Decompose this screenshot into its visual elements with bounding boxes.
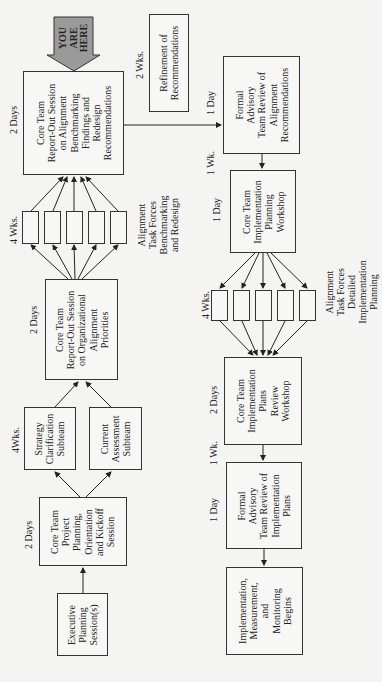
advisory-alignment-box: Formal Advisory Team Review of Alignment… xyxy=(223,56,300,154)
detail-task-force-box-5 xyxy=(299,290,316,321)
plans-review-box: Core Team Implementation Plans Review Wo… xyxy=(224,357,302,445)
advisory-plans-box: Formal Advisory Team Review of Implement… xyxy=(226,462,302,549)
advisory-plans-text: Formal Advisory Team Review of Implement… xyxy=(236,473,292,539)
detail-task-force-box-4 xyxy=(277,290,294,321)
executive-planning-text: Executive Planning Session(s) xyxy=(66,604,100,645)
task-force-box-3 xyxy=(66,211,83,244)
task-force-box-1 xyxy=(22,211,39,244)
advisory-alignment-text: Formal Advisory Team Review of Alignment… xyxy=(233,68,289,142)
gap-1-wk: 1 Wk. xyxy=(205,151,216,175)
you-are-here-label: YOU ARE HERE xyxy=(58,24,90,52)
advisory-alignment-duration: 1 Day xyxy=(205,91,216,115)
task-force-box-5 xyxy=(110,211,127,244)
task-forces-duration: 4 Wks. xyxy=(8,216,19,244)
plans-review-text: Core Team Implementation Plans Review Wo… xyxy=(235,369,291,432)
detail-task-force-box-3 xyxy=(255,290,272,321)
kickoff-duration: 2 Days xyxy=(23,521,34,549)
org-alignment-box: Core Team Report-Out Session on Organiza… xyxy=(45,279,118,380)
benchmarking-report-duration: 2 Days xyxy=(8,106,19,134)
assessment-subteam-box: Current Assessment Subteam xyxy=(89,407,142,470)
task-force-box-2 xyxy=(44,211,61,244)
refinement-text: Refinement of Recommendations xyxy=(158,26,180,100)
detail-task-forces-duration: 4 Wks. xyxy=(200,291,211,319)
detail-task-force-box-2 xyxy=(233,290,250,321)
org-alignment-duration: 2 Days xyxy=(28,306,39,334)
strategy-subteam-text: Strategy Clarification Subteam xyxy=(33,413,67,464)
org-alignment-text: Core Team Report-Out Session on Organiza… xyxy=(53,290,109,369)
executive-planning-box: Executive Planning Session(s) xyxy=(57,593,108,656)
strategy-subteam-box: Strategy Clarification Subteam xyxy=(24,407,76,470)
plans-review-duration: 2 Days xyxy=(208,386,219,414)
detail-task-force-box-1 xyxy=(211,290,228,321)
advisory-plans-duration: 1 Day xyxy=(208,498,219,522)
refinement-box: Refinement of Recommendations xyxy=(149,14,189,112)
task-forces-benchmarking-label: Alignment Task Forces Benchmarking and R… xyxy=(136,196,180,255)
benchmarking-report-box: Core Team Report-Out Session on Alignmen… xyxy=(23,71,124,175)
impl-planning-text: Core Team Implementation Planning Worksh… xyxy=(241,180,286,243)
impl-planning-box: Core Team Implementation Planning Worksh… xyxy=(230,170,296,253)
task-force-box-4 xyxy=(88,211,105,244)
impl-planning-duration: 1 Day xyxy=(211,198,222,222)
task-forces-detailed-label: Alignment Task Forces Detailed Implement… xyxy=(324,260,379,323)
subteams-duration: 4Wks. xyxy=(10,427,21,453)
implementation-box: Implementation, Measurement, and Monitor… xyxy=(226,567,303,655)
gap-2-wk: 1 Wk. xyxy=(208,441,219,465)
kickoff-session-box: Core Team Project Planning, Orientation … xyxy=(39,497,127,566)
benchmarking-report-text: Core Team Report-Out Session on Alignmen… xyxy=(34,84,112,163)
assessment-subteam-text: Current Assessment Subteam xyxy=(99,415,133,462)
implementation-text: Implementation, Measurement, and Monitor… xyxy=(236,578,292,644)
kickoff-session-text: Core Team Project Planning, Orientation … xyxy=(49,508,116,556)
refinement-duration: 2 Wks. xyxy=(134,51,145,79)
